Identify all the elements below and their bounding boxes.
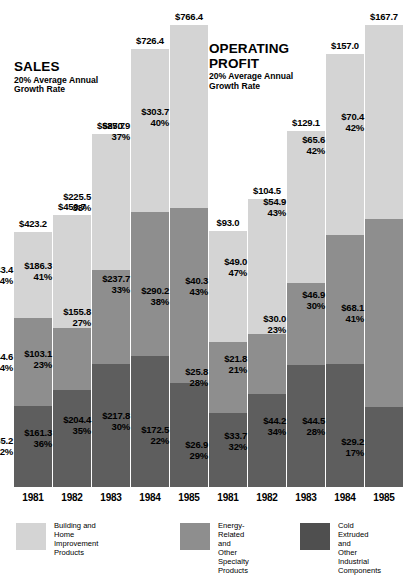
legend-swatch-light xyxy=(16,523,46,550)
segment-percent: 40% xyxy=(121,117,169,128)
segment-value: $225.5 xyxy=(63,191,91,202)
segment-percent: 43% xyxy=(160,286,208,297)
segment-label-sales-1982-mid: $103.123% xyxy=(4,348,52,370)
segment-value: $186.3 xyxy=(24,260,52,271)
sales-title: SALES xyxy=(14,60,134,75)
chart-legend: Building and Home Improvement ProductsEn… xyxy=(0,521,399,563)
segment-percent: 28% xyxy=(160,377,208,388)
segment-operating-profit-1984-mid xyxy=(326,235,364,364)
year-label-operating-profit-1984: 1984 xyxy=(325,492,365,503)
segment-label-operating-profit-1984-light: $65.642% xyxy=(277,134,325,156)
segment-percent: 38% xyxy=(43,202,91,213)
segment-value: $29.2 xyxy=(341,436,364,447)
segment-percent: 32% xyxy=(199,441,247,452)
segment-label-operating-profit-1981-light: $40.343% xyxy=(160,275,208,297)
segment-operating-profit-1982-dark xyxy=(248,394,286,487)
year-label-operating-profit-1983: 1983 xyxy=(286,492,326,503)
segment-label-operating-profit-1983-light: $54.943% xyxy=(238,196,286,218)
segment-percent: 23% xyxy=(4,359,52,370)
segment-value: $68.1 xyxy=(341,302,364,313)
year-label-sales-1982: 1982 xyxy=(52,492,92,503)
total-label-sales-1985: $766.4 xyxy=(159,11,219,22)
segment-operating-profit-1985-dark xyxy=(365,407,403,487)
segment-percent: 41% xyxy=(316,313,364,324)
plot-area: SALES 20% Average Annual Growth Rate OPE… xyxy=(0,0,399,500)
segment-sales-1982-mid xyxy=(53,328,91,390)
segment-label-operating-profit-1985-dark: $29.217% xyxy=(316,436,364,458)
segment-percent: 47% xyxy=(199,267,247,278)
segment-label-operating-profit-1982-light: $49.047% xyxy=(199,256,247,278)
segment-sales-1985-light xyxy=(170,25,208,208)
legend-swatch-dark xyxy=(300,523,330,550)
segment-value: $237.7 xyxy=(102,273,130,284)
total-label-operating-profit-1981: $93.0 xyxy=(198,217,258,228)
segment-value: $54.9 xyxy=(263,196,286,207)
segment-operating-profit-1985-mid xyxy=(365,219,403,407)
total-label-operating-profit-1984: $157.0 xyxy=(315,40,375,51)
year-label-operating-profit-1982: 1982 xyxy=(247,492,287,503)
bar-operating-profit-1982 xyxy=(248,199,286,487)
segment-value: $103.1 xyxy=(24,348,52,359)
segment-value: $172.5 xyxy=(141,424,169,435)
segment-value: $303.7 xyxy=(141,106,169,117)
year-label-sales-1981: 1981 xyxy=(13,492,53,503)
year-label-sales-1983: 1983 xyxy=(91,492,131,503)
segment-label-operating-profit-1984-dark: $44.528% xyxy=(277,415,325,437)
segment-percent: 42% xyxy=(316,122,364,133)
segment-label-operating-profit-1985-mid: $68.141% xyxy=(316,302,364,324)
segment-value: $46.9 xyxy=(302,289,325,300)
segment-percent: 43% xyxy=(238,207,286,218)
legend-swatch-mid xyxy=(180,523,210,550)
bar-sales-1982 xyxy=(53,215,91,487)
segment-operating-profit-1985-light xyxy=(365,25,403,219)
segment-percent: 23% xyxy=(238,324,286,335)
year-label-operating-profit-1985: 1985 xyxy=(364,492,404,503)
segment-value: $49.0 xyxy=(224,256,247,267)
bar-operating-profit-1985 xyxy=(365,25,403,487)
segment-value: $30.0 xyxy=(263,313,286,324)
segment-percent: 42% xyxy=(277,145,325,156)
segment-percent: 17% xyxy=(316,447,364,458)
segment-operating-profit-1982-mid xyxy=(248,334,286,394)
legend-label-mid: Energy-Related and Other Specialty Produ… xyxy=(218,521,249,576)
total-label-operating-profit-1982: $104.5 xyxy=(237,185,297,196)
profit-subtitle: 20% Average Annual Growth Rate xyxy=(209,72,334,91)
segment-percent: 21% xyxy=(199,364,247,375)
segment-label-operating-profit-1985-light: $70.442% xyxy=(316,111,364,133)
total-label-operating-profit-1985: $167.7 xyxy=(354,11,407,22)
segment-label-sales-1982-light: $186.341% xyxy=(4,260,52,282)
total-label-sales-1984: $726.4 xyxy=(120,35,180,46)
segment-value: $44.5 xyxy=(302,415,325,426)
sales-title-block: SALES 20% Average Annual Growth Rate xyxy=(14,60,134,95)
total-label-sales-1981: $423.2 xyxy=(3,218,63,229)
year-label-sales-1985: 1985 xyxy=(169,492,209,503)
segment-percent: 41% xyxy=(4,271,52,282)
segment-percent: 37% xyxy=(82,131,130,142)
segment-percent: 29% xyxy=(160,450,208,461)
year-label-operating-profit-1981: 1981 xyxy=(208,492,248,503)
segment-label-operating-profit-1983-mid: $30.023% xyxy=(238,313,286,335)
segment-value: $217.8 xyxy=(102,410,130,421)
segment-percent: 36% xyxy=(4,438,52,449)
segment-label-sales-1985-light: $303.740% xyxy=(121,106,169,128)
segment-value: $155.8 xyxy=(63,306,91,317)
segment-operating-profit-1984-dark xyxy=(326,364,364,487)
segment-value: $65.6 xyxy=(302,134,325,145)
sales-subtitle: 20% Average Annual Growth Rate xyxy=(14,76,134,95)
segment-label-sales-1983-light: $225.538% xyxy=(43,191,91,213)
segment-label-operating-profit-1982-mid: $21.821% xyxy=(199,353,247,375)
legend-label-light: Building and Home Improvement Products xyxy=(54,521,98,557)
segment-operating-profit-1984-light xyxy=(326,54,364,235)
legend-label-dark: Cold Extruded and Other Industrial Compo… xyxy=(338,521,381,576)
segment-percent: 27% xyxy=(43,317,91,328)
year-label-sales-1984: 1984 xyxy=(130,492,170,503)
segment-value: $21.8 xyxy=(224,353,247,364)
segment-label-sales-1983-mid: $155.827% xyxy=(43,306,91,328)
segment-value: $70.4 xyxy=(341,111,364,122)
segment-sales-1982-dark xyxy=(53,390,91,487)
